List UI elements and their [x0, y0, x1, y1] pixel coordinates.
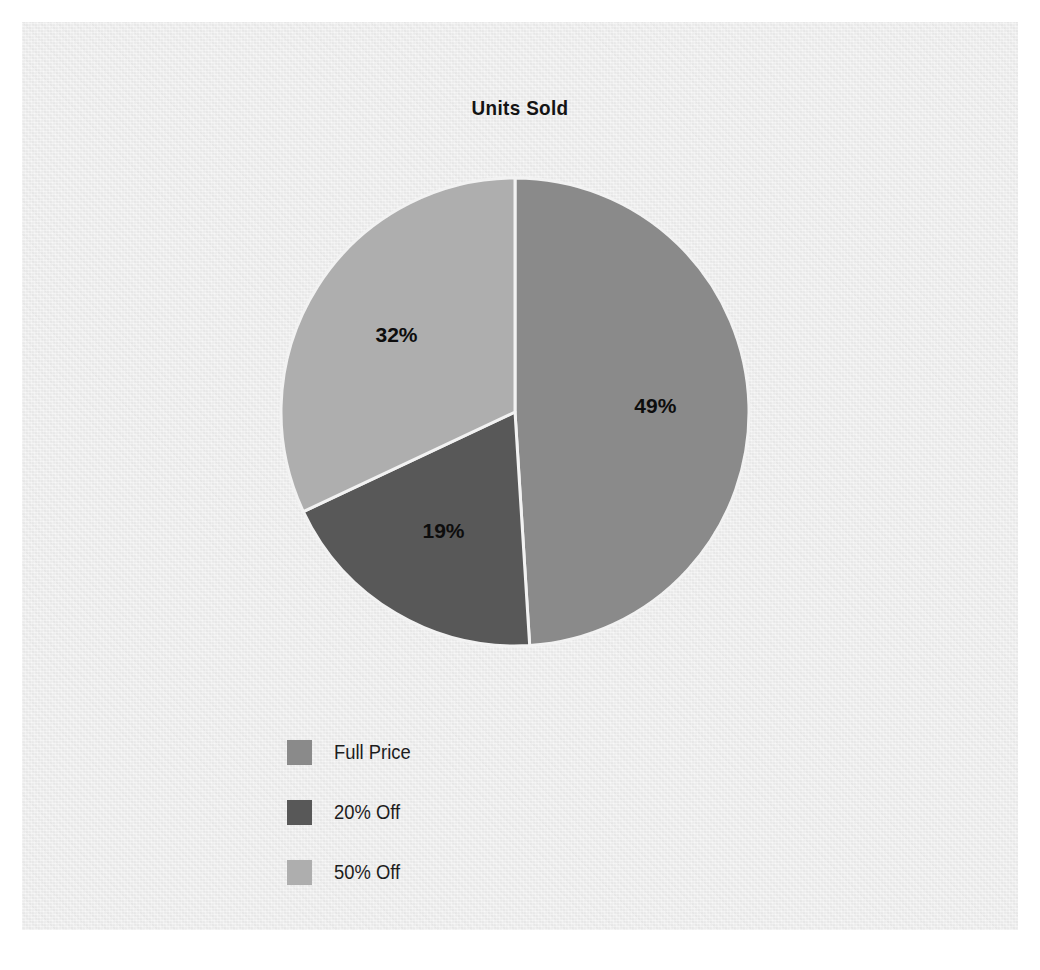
page-title: Units Sold: [52, 96, 988, 120]
pie-slice-label: 19%: [422, 519, 464, 542]
pie-slice[interactable]: [515, 178, 749, 646]
pie-chart-svg: 49%19%32%: [278, 175, 752, 649]
legend-item-full-price[interactable]: Full Price: [287, 722, 417, 782]
pie-slice-label: 32%: [375, 323, 417, 346]
legend-swatch-20-off: [287, 800, 312, 825]
legend-item-50-off[interactable]: 50% Off: [287, 842, 417, 902]
chart-legend: Full Price 20% Off 50% Off: [287, 722, 417, 902]
pie-chart: 49%19%32%: [278, 175, 752, 649]
chart-page: Units Sold 49%19%32% Full Price 20% Off …: [0, 0, 1040, 970]
pie-slice-group: [281, 178, 749, 646]
legend-label-full-price: Full Price: [334, 741, 411, 764]
legend-item-20-off[interactable]: 20% Off: [287, 782, 417, 842]
legend-label-20-off: 20% Off: [334, 801, 400, 824]
legend-swatch-full-price: [287, 740, 312, 765]
legend-label-50-off: 50% Off: [334, 861, 400, 884]
legend-swatch-50-off: [287, 860, 312, 885]
pie-slice-label: 49%: [634, 394, 676, 417]
